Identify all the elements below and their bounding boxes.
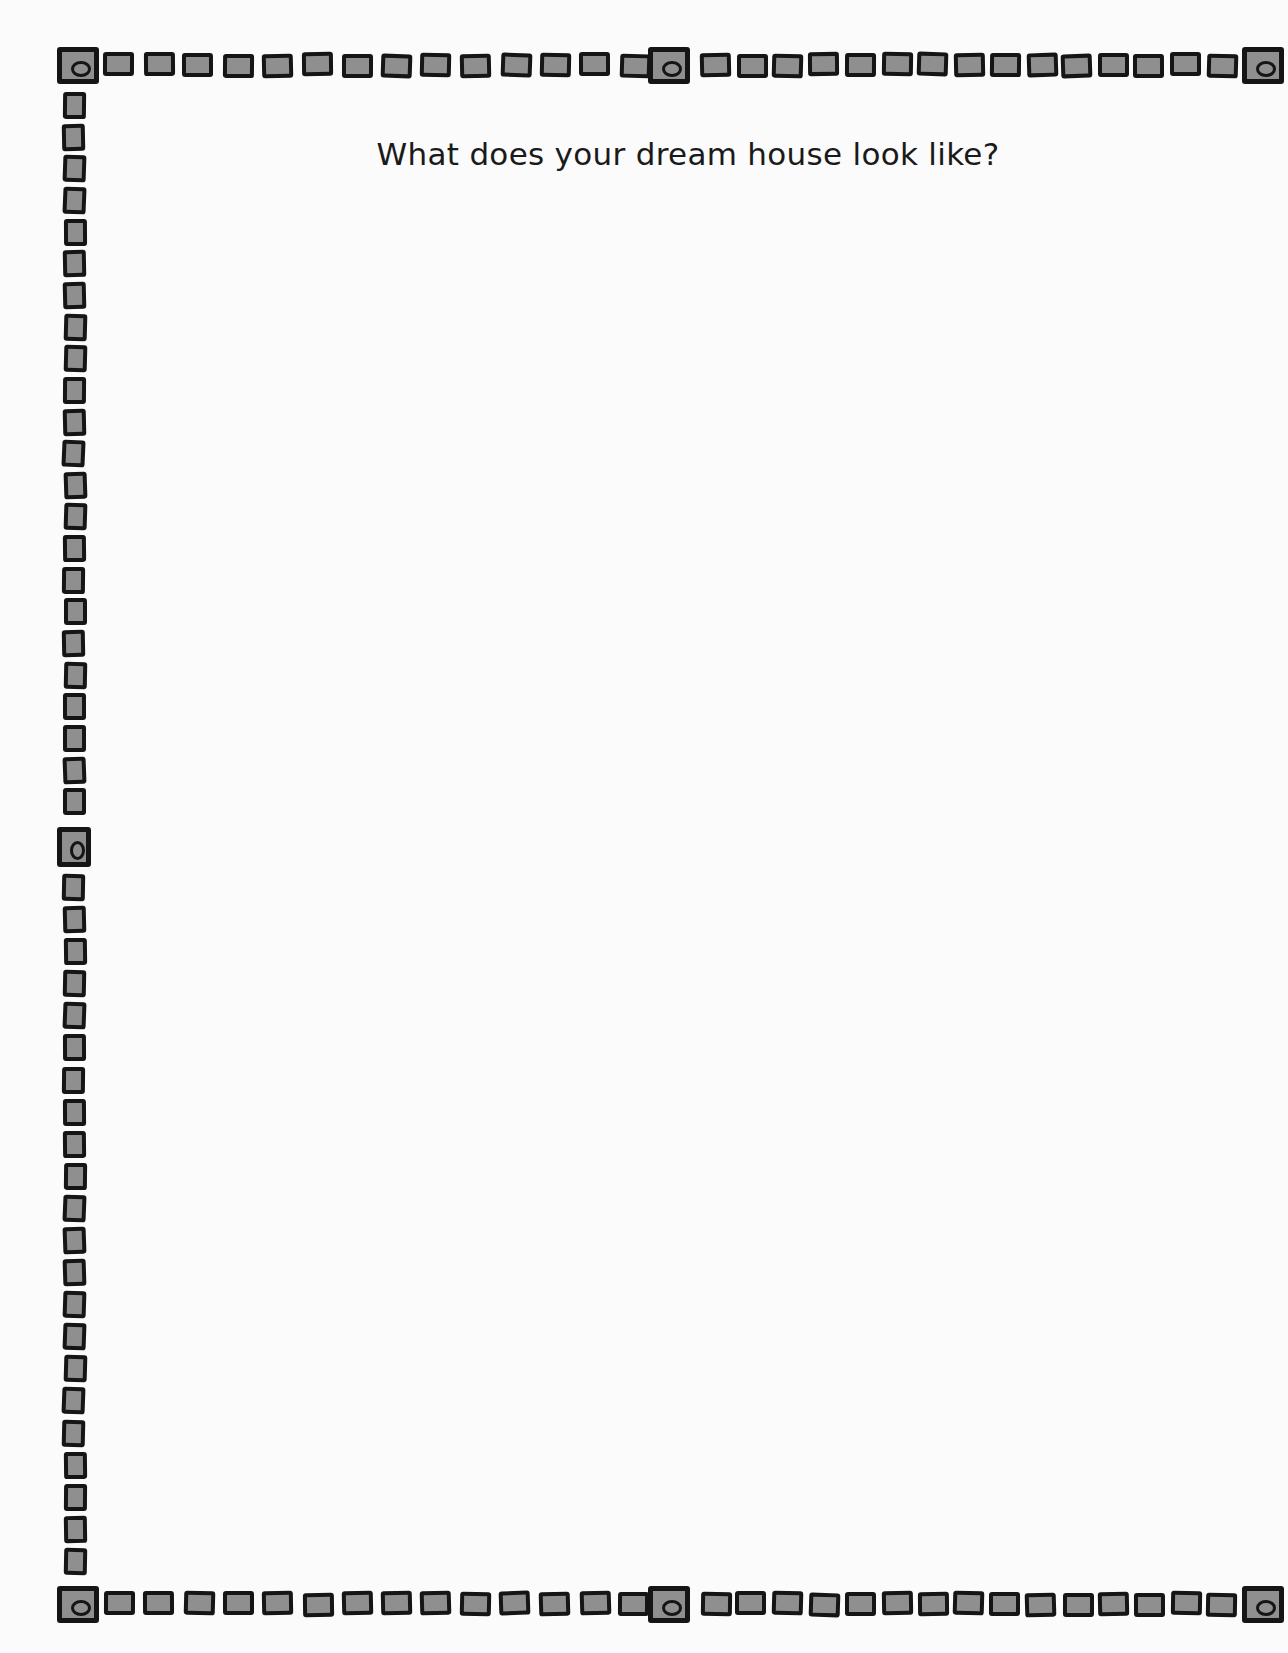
border-square-icon (1026, 52, 1058, 77)
border-square-icon (62, 440, 86, 468)
ring-icon (70, 841, 85, 860)
border-square-icon (701, 1592, 732, 1616)
border-square-icon (619, 53, 651, 78)
border-square-icon (62, 282, 86, 310)
border-square-icon (63, 535, 86, 562)
ring-icon (71, 61, 91, 77)
drawing-area[interactable] (100, 200, 1230, 1570)
border-square-icon (771, 54, 803, 79)
border-square-icon (63, 693, 86, 720)
border-square-icon (1098, 53, 1129, 77)
border-square-icon (63, 92, 86, 119)
border-square-icon (62, 1419, 86, 1447)
border-square-icon (380, 1590, 412, 1615)
border-square-icon (578, 52, 609, 76)
border-square-icon (1133, 54, 1164, 78)
border-square-icon (63, 1099, 86, 1126)
bottom-center-medallion-icon (648, 1586, 690, 1623)
border-square-icon (808, 52, 839, 76)
border-left (0, 0, 60, 1653)
border-square-icon (953, 53, 984, 78)
border-square-icon (144, 52, 175, 76)
border-square-icon (62, 874, 85, 901)
border-square-icon (64, 938, 87, 965)
border-square-icon (62, 630, 85, 657)
bottom-left-medallion-icon (57, 1586, 99, 1623)
border-square-icon (882, 51, 913, 75)
page-title: What does your dream house look like? (0, 136, 1288, 172)
border-square-icon (62, 408, 86, 436)
border-square-icon (62, 1194, 86, 1222)
border-square-icon (62, 1259, 86, 1287)
border-top (0, 47, 1257, 87)
border-square-icon (64, 1451, 87, 1478)
border-square-icon (63, 1323, 87, 1351)
border-square-icon (501, 52, 533, 77)
border-square-icon (1170, 52, 1201, 76)
border-square-icon (1098, 1592, 1130, 1617)
border-square-icon (64, 1484, 87, 1511)
border-square-icon (63, 788, 86, 815)
ring-icon (1256, 1600, 1276, 1616)
border-square-icon (579, 1591, 611, 1616)
border-square-icon (990, 53, 1021, 77)
border-square-icon (1061, 54, 1093, 79)
border-square-icon (63, 661, 87, 688)
border-square-icon (735, 1591, 766, 1615)
border-square-icon (771, 1591, 803, 1616)
border-square-icon (882, 1590, 913, 1615)
border-square-icon (63, 1516, 86, 1543)
border-square-icon (917, 51, 949, 76)
border-square-icon (63, 1227, 87, 1255)
border-square-icon (63, 250, 87, 277)
border-square-icon (499, 1591, 531, 1616)
border-square-icon (1063, 1593, 1094, 1617)
border-square-icon (62, 186, 86, 214)
border-square-icon (63, 725, 86, 752)
ring-icon (662, 1600, 682, 1616)
border-square-icon (459, 1592, 491, 1617)
border-square-icon (63, 503, 87, 531)
border-square-icon (1206, 1592, 1237, 1617)
border-square-icon (540, 53, 572, 78)
border-square-icon (63, 1034, 86, 1061)
border-square-icon (918, 1592, 949, 1616)
border-square-icon (184, 1591, 216, 1616)
border-square-icon (262, 54, 294, 79)
border-square-icon (64, 1548, 88, 1575)
border-square-icon (223, 54, 254, 78)
border-square-icon (63, 1002, 87, 1030)
border-square-icon (62, 1066, 85, 1093)
border-square-icon (303, 1593, 334, 1617)
border-square-icon (62, 906, 86, 934)
border-bottom (0, 1586, 1257, 1626)
ring-icon (662, 61, 682, 77)
ring-icon (1256, 61, 1276, 77)
border-square-icon (63, 1131, 86, 1158)
left-middle-medallion-icon (57, 827, 91, 867)
border-square-icon (64, 1163, 87, 1190)
border-square-icon (341, 1590, 373, 1615)
border-square-icon (63, 970, 87, 997)
bottom-right-medallion-icon (1242, 1586, 1284, 1623)
border-square-icon (380, 53, 412, 78)
border-square-icon (420, 1590, 452, 1615)
border-square-icon (845, 53, 876, 77)
border-square-icon (1134, 1592, 1165, 1616)
border-square-icon (143, 1591, 174, 1615)
border-square-icon (182, 53, 213, 77)
border-square-icon (809, 1593, 841, 1618)
border-square-icon (302, 52, 333, 76)
border-square-icon (62, 1387, 86, 1415)
border-square-icon (699, 53, 731, 78)
border-square-icon (64, 1355, 88, 1383)
border-square-icon (737, 54, 768, 78)
border-square-icon (420, 52, 452, 77)
border-square-icon (63, 377, 86, 404)
border-square-icon (845, 1592, 876, 1616)
border-square-icon (618, 1591, 649, 1615)
top-left-medallion-icon (57, 47, 99, 84)
border-square-icon (460, 54, 492, 79)
border-square-icon (953, 1591, 985, 1616)
border-square-icon (63, 471, 87, 499)
